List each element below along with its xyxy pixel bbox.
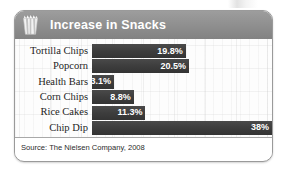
snacks-chart-card: Increase in Snacks Tortilla Chips 19.8% … [14,10,273,162]
bar-track: 3.1% [92,75,272,89]
bar-value: 8.8% [110,93,131,102]
bar-label: Rice Cakes [15,107,92,118]
bar-label: Chip Dip [15,123,92,134]
bar-label: Popcorn [15,61,92,72]
bar-track: 38% [92,121,272,135]
bar-fill: 11.3% [92,106,145,120]
bar-value: 19.8% [157,47,183,56]
bar-row: Corn Chips 8.8% [15,90,272,104]
chart-footer: Source: The Nielsen Company, 2008 [15,137,272,158]
bar-fill: 3.1% [92,75,114,89]
bar-value: 38% [251,123,269,132]
bar-fill: 8.8% [92,90,134,104]
bar-track: 20.5% [92,59,272,73]
bar-fill: 20.5% [92,59,189,73]
bar-row: Tortilla Chips 19.8% [15,44,272,58]
bar-value: 3.1% [90,77,111,86]
bar-row: Chip Dip 38% [15,121,272,135]
chart-plot-area: Tortilla Chips 19.8% Popcorn 20.5% Healt… [15,39,272,137]
bar-row: Popcorn 20.5% [15,59,272,73]
bar-label: Health Bars [15,77,92,88]
bar-track: 19.8% [92,44,272,58]
chart-header: Increase in Snacks [15,11,272,39]
bar-row: Rice Cakes 11.3% [15,106,272,120]
bar-track: 8.8% [92,90,272,104]
scan-artifact [228,0,258,8]
bar-label: Tortilla Chips [15,46,92,57]
chart-title: Increase in Snacks [50,19,166,32]
popcorn-cup-icon [22,15,39,35]
bar-fill: 38% [92,121,272,135]
bar-value: 11.3% [117,108,142,117]
bar-value: 20.5% [160,62,186,71]
bar-row: Health Bars 3.1% [15,75,272,89]
bar-label: Corn Chips [15,92,92,103]
bar-track: 11.3% [92,106,272,120]
source-text: Source: The Nielsen Company, 2008 [21,144,145,152]
bar-fill: 19.8% [92,44,186,58]
